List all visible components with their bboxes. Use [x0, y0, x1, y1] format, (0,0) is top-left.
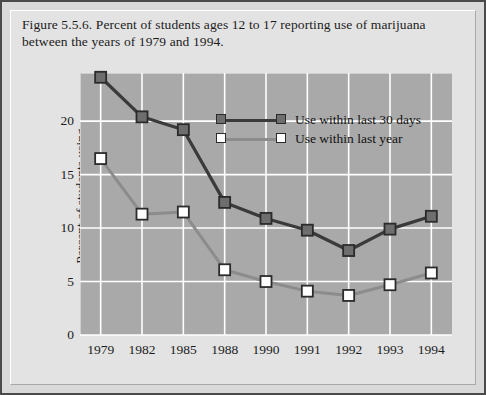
x-axis-ticks: 197919821985198819901991199219931994: [80, 342, 452, 364]
y-tick-label: 10: [61, 220, 75, 236]
figure-caption: Figure 5.5.6. Percent of students ages 1…: [22, 16, 452, 50]
x-tick-label: 1993: [377, 342, 404, 358]
legend-item-lastyear: Use within last year: [216, 129, 421, 148]
x-tick-label: 1994: [418, 342, 445, 358]
legend-swatch-30days: [216, 113, 286, 127]
x-tick-label: 1992: [335, 342, 362, 358]
chart-legend: Use within last 30 days Use within last …: [216, 110, 421, 148]
x-tick-label: 1982: [129, 342, 156, 358]
y-tick-label: 5: [67, 274, 74, 290]
legend-marker-30days-left: [216, 114, 226, 124]
legend-marker-lastyear-left: [216, 133, 226, 143]
x-tick-label: 1985: [170, 342, 197, 358]
x-tick-label: 1979: [87, 342, 114, 358]
legend-item-30days: Use within last 30 days: [216, 110, 421, 129]
y-tick-label: 15: [61, 167, 75, 183]
legend-marker-lastyear-right: [276, 133, 286, 143]
legend-line-30days: [220, 119, 282, 122]
y-tick-label: 0: [67, 327, 74, 343]
legend-line-lastyear: [220, 138, 282, 141]
x-tick-label: 1990: [253, 342, 280, 358]
figure-frame: Figure 5.5.6. Percent of students ages 1…: [0, 0, 486, 395]
y-axis-ticks: 05101520: [36, 73, 74, 335]
legend-label-lastyear: Use within last year: [295, 131, 403, 147]
legend-label-30days: Use within last 30 days: [295, 112, 421, 128]
legend-marker-30days-right: [276, 114, 286, 124]
y-tick-label: 20: [61, 113, 75, 129]
x-tick-label: 1988: [211, 342, 238, 358]
x-tick-label: 1991: [294, 342, 321, 358]
legend-swatch-lastyear: [216, 132, 286, 146]
